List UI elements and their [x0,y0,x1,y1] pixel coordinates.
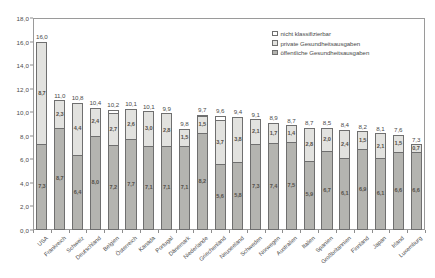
bar-slot[interactable]: 16,08,77,3 [36,42,47,230]
bar-total-label: 8,4 [341,121,349,128]
bar-stack: 10,13,07,1 [143,111,154,230]
bar-segment-value: 6,6 [412,188,419,194]
bar-slot[interactable]: 9,43,85,8 [232,117,243,230]
bar-segment-private[interactable]: 2,0 [321,128,332,152]
bar-segment-private[interactable]: 2,4 [339,130,350,158]
bar-segment-private[interactable]: 3,8 [232,117,243,162]
x-axis-tick-mark [372,230,373,233]
bar-segment-value: 5,8 [234,193,241,199]
bar-segment-private[interactable]: 2,3 [54,100,65,127]
x-axis-tick-mark [158,230,159,233]
bar-segment-public[interactable]: 6,7 [321,151,332,230]
bar-slot[interactable]: 8,71,47,5 [286,125,297,230]
bar-stack: 9,81,57,1 [179,129,190,230]
x-axis-tick-mark [354,230,355,233]
bar-slot[interactable]: 9,92,87,1 [161,113,172,230]
bar-total-label: 8,7 [305,119,313,126]
bar-segment-private[interactable]: 1,7 [268,123,279,143]
bar-total-label: 10,1 [143,103,155,110]
bar-stack: 8,42,46,1 [339,130,350,230]
bar-slot[interactable]: 9,71,58,2 [197,115,208,230]
bar-segment-private[interactable]: 1,4 [286,125,297,141]
bar-segment-public[interactable]: 6,1 [339,158,350,230]
bar-slot[interactable]: 8,52,06,7 [321,128,332,230]
x-axis-tick-mark [122,230,123,233]
bar-slot[interactable]: 11,02,38,7 [54,100,65,230]
bar-segment-value: 1,7 [270,131,277,137]
legend-label-private: private Gesundheitsausgaben [281,40,361,47]
legend-label-unclassified: nicht klassifizierbar [281,30,331,37]
legend-label-public: öffentliche Gesundheitsausgaben [281,49,370,56]
bar-segment-value: 6,9 [359,187,366,193]
bar-segment-private[interactable]: 2,4 [90,108,101,136]
bar-segment-public[interactable]: 7,3 [36,144,47,230]
bar-slot[interactable]: 8,91,77,4 [268,123,279,230]
bar-slot[interactable]: 9,12,17,3 [250,119,261,230]
bar-slot[interactable]: 8,42,46,1 [339,130,350,230]
x-axis-tick-mark [229,230,230,233]
bar-segment-private[interactable]: 1,5 [197,116,208,134]
bar-segment-public[interactable]: 6,1 [375,158,386,230]
bar-segment-value: 2,0 [323,137,330,143]
bar-segment-private[interactable]: 2,1 [250,119,261,144]
bar-segment-value: 7,3 [38,184,45,190]
bar-segment-private[interactable]: 1,5 [179,129,190,147]
bar-segment-value: 6,1 [377,191,384,197]
y-axis-tick-label: 0,0 [20,227,29,234]
bar-slot[interactable]: 10,22,77,2 [108,110,119,230]
bar-segment-value: 7,3 [252,184,259,190]
bar-segment-private[interactable]: 2,8 [304,128,315,161]
bar-segment-public[interactable]: 6,6 [393,152,404,230]
bar-segment-private[interactable]: 3,0 [143,111,154,146]
x-axis-label-text: USA [36,235,49,247]
bar-slot[interactable]: 8,21,56,9 [357,131,368,230]
bar-total-label: 8,5 [323,119,331,126]
bar-segment-public[interactable]: 7,1 [179,146,190,230]
bar-slot[interactable]: 10,84,46,4 [72,103,83,230]
bar-segment-private[interactable]: 2,8 [161,113,172,146]
bar-segment-public[interactable]: 8,0 [90,136,101,230]
bar-slot[interactable]: 8,72,85,9 [304,128,315,230]
x-axis-tick-mark [33,230,34,233]
bar-segment-private[interactable]: 0,7 [411,144,422,152]
bar-segment-public[interactable]: 8,2 [197,133,208,230]
x-axis-label-text: Japan [372,235,388,250]
y-axis-tick-label: 10,0 [17,109,29,116]
bar-slot[interactable]: 10,42,48,0 [90,108,101,230]
bar-segment-value: 6,1 [341,191,348,197]
bar-slot[interactable]: 10,12,67,7 [125,109,136,230]
bar-segment-private[interactable]: 4,4 [72,103,83,155]
bar-stack: 8,21,56,9 [357,131,368,230]
y-axis: 0,02,04,06,08,010,012,014,016,018,0 [0,18,33,230]
bar-total-label: 10,8 [72,94,84,101]
bar-segment-private[interactable]: 1,5 [357,131,368,149]
bar-slot[interactable]: 7,61,56,6 [393,135,404,230]
bar-stack: 8,52,06,7 [321,128,332,230]
bar-segment-private[interactable]: 8,7 [36,42,47,144]
bar-segment-private[interactable]: 1,5 [393,135,404,153]
bar-slot[interactable]: 9,81,57,1 [179,129,190,230]
x-axis-tick-mark [282,230,283,233]
bar-slot[interactable]: 10,13,07,1 [143,111,154,230]
bar-segment-private[interactable]: 2,7 [108,113,119,145]
bar-total-label: 8,9 [269,114,277,121]
bar-stack: 9,63,75,6 [215,116,226,230]
y-axis-tick-label: 12,0 [17,85,29,92]
bar-segment-private[interactable]: 2,6 [125,109,136,140]
bar-segment-private[interactable]: 3,7 [215,120,226,164]
bar-segment-value: 7,5 [288,183,295,189]
bar-slot[interactable]: 7,30,76,6 [411,144,422,230]
bar-segment-public[interactable]: 7,1 [161,146,172,230]
x-axis-tick-mark [247,230,248,233]
bar-segment-private[interactable]: 2,1 [375,133,386,158]
bar-segment-public[interactable]: 7,7 [125,139,136,230]
bar-slot[interactable]: 9,63,75,6 [215,116,226,230]
bar-segment-value: 2,3 [56,112,63,118]
chart-legend: nicht klassifizierbar private Gesundheit… [272,30,369,56]
bar-total-label: 9,4 [234,108,242,115]
bar-segment-public[interactable]: 8,7 [54,128,65,230]
bar-segment-value: 6,6 [395,188,402,194]
bar-stack: 11,02,38,7 [54,100,65,230]
bar-segment-public[interactable]: 6,6 [411,152,422,230]
bar-segment-value: 1,5 [359,138,366,144]
